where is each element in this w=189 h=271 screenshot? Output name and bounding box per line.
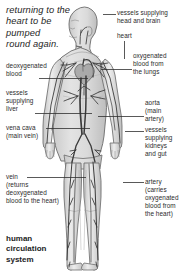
- label-vena-cava-main-vein: vena cava (main vein): [6, 124, 38, 140]
- intro-note: returning to the heart to be pumped roun…: [6, 5, 70, 51]
- label-artery-carries-oxygenated-blood: artery (carries oxygenated blood from th…: [145, 178, 179, 218]
- label-vein-returns-deoxygenated-blood: vein (returns deoxygenated blood to the …: [6, 173, 59, 205]
- label-aorta-main-artery: aorta (main artery): [145, 99, 164, 123]
- label-vessels-supplying-kidneys-and-gut: vessels supplying kidneys and gut: [145, 126, 172, 158]
- label-deoxygenated-blood: deoxygenated blood: [6, 62, 47, 78]
- diagram-title: human circulation system: [6, 234, 46, 265]
- label-vessels-supplying-head-and-brain: vessels supplying head and brain: [117, 9, 168, 25]
- circulation-diagram-page: returning to the heart to be pumped roun…: [0, 0, 189, 271]
- label-oxygenated-blood-from-the-lungs: oxygenated blood from the lungs: [133, 52, 167, 76]
- label-heart: heart: [117, 32, 132, 40]
- label-vessels-supplying-liver: vessels supplying liver: [6, 89, 33, 113]
